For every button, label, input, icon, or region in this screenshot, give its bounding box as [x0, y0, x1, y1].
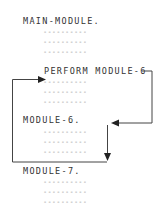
flow-arrows: [0, 0, 162, 213]
arrow-return-after-perform: [13, 76, 108, 162]
arrow-module-6-end: [104, 125, 111, 161]
arrow-to-module-6: [111, 71, 152, 127]
